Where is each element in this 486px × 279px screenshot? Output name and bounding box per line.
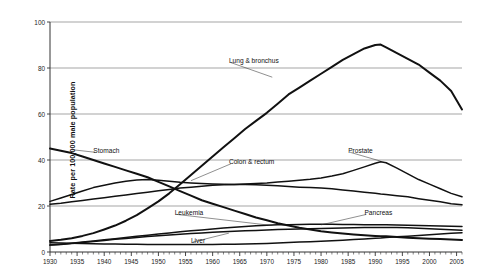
y-tick-label: 60 bbox=[21, 111, 45, 118]
x-tick-label: 1945 bbox=[124, 258, 138, 265]
x-tick-label: 2005 bbox=[449, 258, 463, 265]
y-tick-label: 20 bbox=[21, 203, 45, 210]
x-tick-label: 1965 bbox=[233, 258, 247, 265]
annotation-leader bbox=[231, 63, 272, 78]
x-tick-label: 1990 bbox=[368, 258, 382, 265]
x-tick-label: 1980 bbox=[314, 258, 328, 265]
series-label-stomach: Stomach bbox=[93, 147, 119, 154]
x-tick-label: 1955 bbox=[178, 258, 192, 265]
x-tick-label: 1970 bbox=[260, 258, 274, 265]
x-tick-label: 1940 bbox=[97, 258, 111, 265]
series-label-colon-rectum: Colon & rectum bbox=[229, 158, 274, 165]
x-tick-label: 1935 bbox=[70, 258, 84, 265]
series-label-liver: Liver bbox=[191, 237, 205, 244]
series-label-leukemia: Leukemia bbox=[175, 209, 204, 216]
series-line-lung-bronchus bbox=[50, 45, 462, 241]
x-tick-label: 1960 bbox=[206, 258, 220, 265]
series-label-prostate: Prostate bbox=[348, 147, 373, 154]
series-label-pancreas: Pancreas bbox=[364, 209, 392, 216]
annotation-leader bbox=[191, 164, 231, 181]
x-tick-label: 1930 bbox=[43, 258, 57, 265]
x-tick-label: 1950 bbox=[151, 258, 165, 265]
y-tick-label: 100 bbox=[21, 19, 45, 26]
y-tick-label: 0 bbox=[21, 249, 45, 256]
annotation-leader bbox=[177, 214, 273, 225]
series-label-lung-bronchus: Lung & bronchus bbox=[229, 57, 279, 64]
x-tick-label: 1995 bbox=[395, 258, 409, 265]
cancer-mortality-line-chart: Rate per 100,000 male population 1008060… bbox=[0, 0, 486, 279]
y-tick-label: 40 bbox=[21, 157, 45, 164]
x-tick-label: 2000 bbox=[422, 258, 436, 265]
x-tick-label: 1975 bbox=[287, 258, 301, 265]
x-tick-label: 1985 bbox=[341, 258, 355, 265]
annotation-leader bbox=[321, 214, 366, 224]
y-axis-title: Rate per 100,000 male population bbox=[68, 81, 77, 198]
y-tick-label: 80 bbox=[21, 65, 45, 72]
